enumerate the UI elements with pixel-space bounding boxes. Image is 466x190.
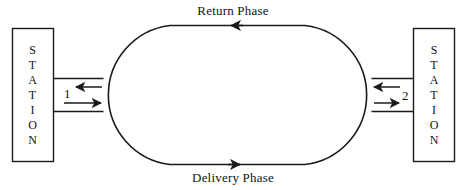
station-left-label: S T A T I O N [12, 28, 53, 162]
diagram-canvas: Return Phase Delivery Phase S T A T I O … [0, 0, 466, 190]
station-left-letter: T [29, 58, 36, 73]
return-phase-label: Return Phase [0, 3, 466, 19]
station-right-letter: S [431, 43, 438, 58]
station-left-letter: N [28, 133, 37, 148]
station-right-letter: T [430, 58, 437, 73]
loop-track-path [108, 26, 366, 165]
station-right-letter: O [430, 118, 439, 133]
station-right-label: S T A T I O N [413, 28, 455, 162]
station-right-letter: N [430, 133, 439, 148]
delivery-phase-label: Delivery Phase [0, 170, 466, 186]
station-left-letter: I [31, 103, 35, 118]
station-left-letter: O [28, 118, 37, 133]
port-1-number-label: 1 [64, 86, 71, 102]
station-right-letter: A [430, 73, 439, 88]
station-right-letter: I [432, 103, 436, 118]
station-right-letter: T [430, 88, 437, 103]
station-left-letter: T [29, 88, 36, 103]
station-left-letter: A [28, 73, 37, 88]
station-left-letter: S [29, 43, 36, 58]
port-2-number-label: 2 [402, 88, 409, 104]
